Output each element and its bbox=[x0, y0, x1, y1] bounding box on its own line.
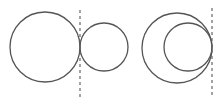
small-circle-left bbox=[80, 23, 128, 71]
small-circle-right bbox=[164, 23, 212, 71]
tangent-circles-diagram bbox=[0, 0, 223, 111]
large-circle-left bbox=[10, 12, 80, 82]
internal-tangency-figure bbox=[142, 8, 212, 95]
large-circle-right bbox=[142, 13, 212, 83]
external-tangency-figure bbox=[10, 10, 128, 97]
